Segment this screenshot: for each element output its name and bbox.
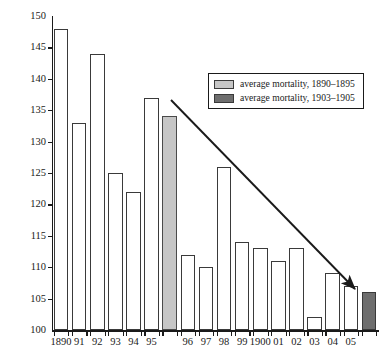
bar <box>217 167 231 330</box>
y-tick-label: 115 <box>10 231 46 241</box>
bar <box>126 192 140 330</box>
bar <box>235 242 249 330</box>
legend-entry-average-1903-1905: average mortality, 1903–1905 <box>214 91 358 105</box>
bar <box>108 173 122 330</box>
bar <box>72 123 86 330</box>
legend-label-1: average mortality, 1890–1895 <box>240 79 355 89</box>
bar <box>253 248 267 330</box>
bar <box>90 54 104 330</box>
bar <box>199 267 213 330</box>
plot-area <box>52 16 378 330</box>
chart-figure: IMR 150145140135130125120115110105100 18… <box>0 0 392 358</box>
bar <box>307 317 321 330</box>
bar-average-1890-1895 <box>162 116 176 330</box>
bar <box>144 98 158 330</box>
dark-gray-swatch-icon <box>214 94 234 103</box>
y-tick-label: 105 <box>10 294 46 304</box>
bar <box>325 273 339 330</box>
bar-average-1903-1905 <box>362 292 376 330</box>
y-tick-label: 100 <box>10 325 46 335</box>
x-tick-label: 95 <box>137 336 167 348</box>
light-gray-swatch-icon <box>214 80 234 89</box>
y-tick-label: 150 <box>10 11 46 21</box>
chart-legend: average mortality, 1890–1895 average mor… <box>208 73 364 109</box>
x-tick-mark <box>362 331 363 336</box>
bar <box>289 248 303 330</box>
bar <box>271 261 285 330</box>
bar <box>54 29 68 330</box>
y-tick-label: 130 <box>10 137 46 147</box>
bar <box>181 255 195 330</box>
x-axis-line <box>52 330 379 332</box>
legend-entry-average-1890-1895: average mortality, 1890–1895 <box>214 77 358 91</box>
y-tick-label: 135 <box>10 105 46 115</box>
x-tick-mark <box>162 331 163 336</box>
x-tick-label: 05 <box>336 336 366 348</box>
y-tick-label: 120 <box>10 199 46 209</box>
y-tick-label: 145 <box>10 42 46 52</box>
y-tick-label: 125 <box>10 168 46 178</box>
x-tick-mark <box>376 331 377 336</box>
legend-label-2: average mortality, 1903–1905 <box>240 93 355 103</box>
bar <box>344 286 358 330</box>
y-tick-label: 140 <box>10 74 46 84</box>
y-tick-label: 110 <box>10 262 46 272</box>
